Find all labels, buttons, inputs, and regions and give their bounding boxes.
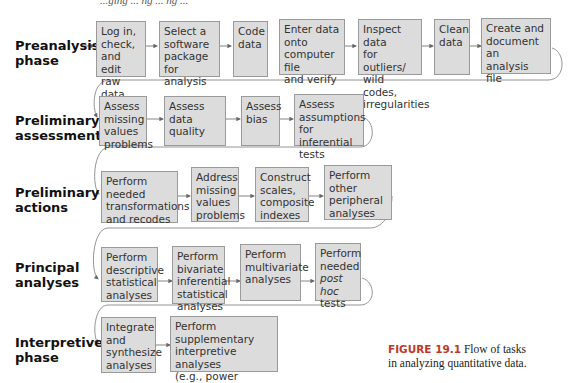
figure-caption: FIGURE 19.1 Flow of tasks in analyzing q…: [388, 342, 527, 370]
step-code-data: Code data: [233, 21, 268, 77]
step-assess-missing-values: Assess missing values problems: [99, 96, 147, 146]
step-integrate-synthesize: Integrate and synthesize analyses: [101, 317, 156, 373]
figure-number: FIGURE 19.1: [388, 343, 461, 355]
step-multivariate-analyses: Perform multivariate analyses: [240, 244, 301, 301]
step-create-analysis-file: Create and document an analysis file: [481, 18, 551, 74]
step-select-software: Select a software package for analysis: [159, 21, 220, 77]
step-peripheral-analyses: Perform other peripheral analyses: [324, 165, 392, 220]
phase-label-principal-analyses: Principal analyses: [15, 260, 79, 290]
step-address-missing-values: Address missing values problems: [191, 167, 239, 222]
step-assess-assumptions: Assess assumptions for inferential tests: [294, 94, 364, 146]
step-enter-data: Enter data onto computer file and verify: [279, 19, 345, 75]
step-login-check-edit: Log in, check, and edit raw data: [96, 21, 146, 77]
step-inspect-data: Inspect data for outliers/ wild codes, i…: [358, 19, 422, 75]
step-bivariate-analyses: Perform bivariate inferential statistica…: [172, 246, 225, 304]
step-assess-bias: Assess bias: [241, 96, 280, 146]
step-construct-scales: Construct scales, composite indexes: [255, 167, 309, 222]
step-descriptive-analyses: Perform descriptive statistical analyses: [101, 247, 158, 302]
step-clean-data: Clean data: [434, 19, 470, 75]
phase-label-preanalysis: Preanalysis phase: [15, 38, 99, 68]
phase-label-preliminary-assessments: Preliminary assessments: [15, 113, 109, 143]
phase-label-preliminary-actions: Preliminary actions: [15, 185, 100, 215]
step-perform-transformations: Perform needed transformations and recod…: [101, 171, 178, 223]
step-assess-data-quality: Assess data quality: [164, 96, 226, 146]
step-post-hoc-tests: Perform needed post hoc tests: [315, 243, 361, 301]
phase-label-interpretive: Interpretive phase: [15, 335, 103, 365]
step-supplementary-analyses: Perform supplementary interpretive analy…: [170, 316, 278, 372]
